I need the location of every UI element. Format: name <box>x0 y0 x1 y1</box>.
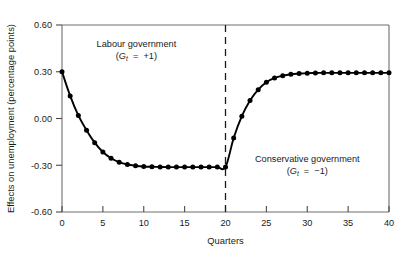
data-point <box>76 113 81 118</box>
data-point <box>109 156 114 161</box>
data-point <box>337 70 342 75</box>
x-tick-label: 5 <box>100 218 105 228</box>
annotation-labour-title: Labour government <box>97 39 177 49</box>
data-point <box>288 72 293 77</box>
data-point <box>378 70 383 75</box>
y-tick-label: -0.30 <box>31 161 52 171</box>
data-point <box>174 165 179 170</box>
data-point <box>100 150 105 155</box>
x-tick-label: 20 <box>220 218 230 228</box>
y-tick-label: -0.60 <box>31 207 52 217</box>
data-point <box>92 140 97 145</box>
x-tick-label: 15 <box>180 218 190 228</box>
x-tick-label: 35 <box>343 218 353 228</box>
annotation-conservative-value: −1 <box>314 166 324 176</box>
data-point <box>84 128 89 133</box>
data-point <box>272 75 277 80</box>
data-point <box>346 70 351 75</box>
data-point <box>313 71 318 76</box>
annotation-labour-formula: (Gt = +1) <box>116 51 157 62</box>
data-point <box>370 70 375 75</box>
annotation-labour-value: +1 <box>143 51 153 61</box>
annotation-conservative: Conservative government (Gt = −1) <box>255 154 360 177</box>
annotation-conservative-formula: (Gt = −1) <box>287 166 328 177</box>
data-point <box>149 164 154 169</box>
data-point <box>264 80 269 85</box>
x-tick-label: 0 <box>59 218 64 228</box>
data-point <box>117 160 122 165</box>
data-point <box>207 165 212 170</box>
data-point <box>158 164 163 169</box>
data-point <box>231 135 236 140</box>
data-point <box>248 98 253 103</box>
x-tick-label: 40 <box>384 218 394 228</box>
y-axis-title: Effects on unemployment (percentage poin… <box>5 24 16 213</box>
y-axis-ticks <box>56 25 62 212</box>
x-tick-label: 10 <box>139 218 149 228</box>
data-point <box>166 165 171 170</box>
y-tick-label: 0.60 <box>34 20 52 30</box>
x-tick-label: 30 <box>302 218 312 228</box>
data-point <box>362 70 367 75</box>
data-point <box>297 71 302 76</box>
data-point <box>239 114 244 119</box>
y-tick-labels: 0.60 0.30 0.00 -0.30 -0.60 <box>31 20 52 217</box>
data-point <box>190 165 195 170</box>
y-tick-label: 0.30 <box>34 67 52 77</box>
chart-figure: 0.60 0.30 0.00 -0.30 -0.60 0 5 10 15 20 … <box>0 0 409 267</box>
data-point <box>68 93 73 98</box>
data-point <box>256 87 261 92</box>
data-point <box>125 162 130 167</box>
data-point <box>141 164 146 169</box>
annotation-labour: Labour government (Gt = +1) <box>97 39 177 62</box>
data-point <box>182 165 187 170</box>
data-point <box>198 165 203 170</box>
chart-canvas: 0.60 0.30 0.00 -0.30 -0.60 0 5 10 15 20 … <box>0 0 409 267</box>
data-point <box>329 70 334 75</box>
x-tick-label: 25 <box>261 218 271 228</box>
data-point <box>387 70 392 75</box>
data-point <box>223 165 228 170</box>
annotation-conservative-title: Conservative government <box>255 154 360 164</box>
data-point <box>354 70 359 75</box>
data-point <box>215 165 220 170</box>
data-point <box>321 70 326 75</box>
annotation-conservative-var: G <box>290 166 297 176</box>
x-axis-title: Quarters <box>207 235 244 246</box>
data-point <box>280 73 285 78</box>
data-point <box>133 163 138 168</box>
y-tick-label: 0.00 <box>34 114 52 124</box>
annotation-labour-var: G <box>119 51 126 61</box>
x-tick-labels: 0 5 10 15 20 25 30 35 40 <box>59 218 394 228</box>
data-point <box>60 69 65 74</box>
data-point <box>305 71 310 76</box>
